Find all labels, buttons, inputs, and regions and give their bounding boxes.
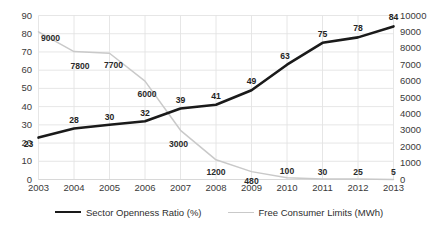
legend-line-light-icon	[228, 212, 254, 213]
legend-item-sector-openness-ratio[interactable]: Sector Openness Ratio (%)	[55, 207, 202, 218]
data-label-free-consumer-limits: 7800	[64, 62, 96, 71]
right-axis-tick: 9000	[400, 27, 438, 37]
data-label-sector-openness: 28	[60, 116, 88, 125]
x-axis-tick: 2008	[198, 183, 234, 193]
x-axis-tick: 2006	[127, 183, 163, 193]
left-axis-tick: 30	[2, 120, 32, 130]
data-label-sector-openness: 32	[131, 109, 159, 118]
legend-label: Sector Openness Ratio (%)	[86, 207, 202, 218]
right-axis-tick: 7000	[400, 60, 438, 70]
left-axis-tick: 80	[2, 29, 32, 39]
data-label-free-consumer-limits: 3000	[163, 140, 195, 149]
x-axis-tick: 2004	[56, 183, 92, 193]
right-axis-tick: 3000	[400, 125, 438, 135]
chart-container: 0102030405060708090 01000200030004000500…	[0, 0, 438, 227]
right-axis-tick: 8000	[400, 43, 438, 53]
left-axis-tick: 40	[2, 102, 32, 112]
data-label-sector-openness: 49	[238, 77, 266, 86]
left-axis-tick: 10	[2, 156, 32, 166]
right-axis-tick: 6000	[400, 76, 438, 86]
right-axis-tick: 2000	[400, 142, 438, 152]
x-axis-tick: 2007	[163, 183, 199, 193]
data-label-sector-openness: 23	[15, 140, 43, 149]
data-label-sector-openness: 30	[96, 113, 124, 122]
data-label-sector-openness: 75	[309, 30, 337, 39]
x-axis-tick: 2003	[21, 183, 57, 193]
left-axis-tick: 90	[2, 11, 32, 21]
data-label-free-consumer-limits: 480	[236, 177, 268, 186]
data-label-sector-openness: 78	[344, 24, 372, 33]
data-label-free-consumer-limits: 9000	[35, 34, 67, 43]
data-label-free-consumer-limits: 7700	[98, 61, 130, 70]
left-axis-tick: 70	[2, 47, 32, 57]
data-label-sector-openness: 63	[271, 52, 299, 61]
legend-line-dark-icon	[55, 211, 81, 213]
right-axis-tick: 5000	[400, 93, 438, 103]
x-axis-tick: 2012	[340, 183, 376, 193]
data-label-free-consumer-limits: 6000	[131, 90, 163, 99]
data-label-free-consumer-limits: 25	[342, 168, 374, 177]
legend-item-free-consumer-limits[interactable]: Free Consumer Limits (MWh)	[228, 207, 384, 218]
right-axis-tick: 1000	[400, 158, 438, 168]
x-axis-tick: 2011	[305, 183, 341, 193]
x-axis-tick: 2005	[92, 183, 128, 193]
left-axis-tick: 60	[2, 65, 32, 75]
data-label-free-consumer-limits: 5	[378, 168, 410, 177]
x-axis-tick: 2010	[269, 183, 305, 193]
data-label-sector-openness: 84	[380, 13, 408, 22]
data-label-free-consumer-limits: 100	[271, 167, 303, 176]
x-axis-tick: 2013	[376, 183, 412, 193]
chart-legend: Sector Openness Ratio (%) Free Consumer …	[0, 203, 438, 221]
data-label-sector-openness: 41	[202, 92, 230, 101]
left-axis-tick: 50	[2, 83, 32, 93]
data-label-free-consumer-limits: 1200	[200, 168, 232, 177]
legend-label: Free Consumer Limits (MWh)	[259, 207, 384, 218]
data-label-free-consumer-limits: 30	[307, 168, 339, 177]
right-axis-tick: 4000	[400, 109, 438, 119]
data-label-sector-openness: 39	[167, 96, 195, 105]
